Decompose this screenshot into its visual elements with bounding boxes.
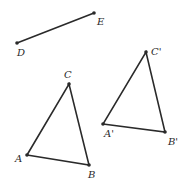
label-a-prime: A' xyxy=(103,128,114,139)
triangle-abc-prime-outline xyxy=(103,52,165,132)
point-d xyxy=(15,41,19,45)
label-a: A xyxy=(14,153,22,164)
segment-de-line xyxy=(17,13,94,43)
point-a xyxy=(25,153,29,157)
point-b xyxy=(87,163,91,167)
label-b-prime: B' xyxy=(167,136,178,147)
segment-de: D E xyxy=(15,11,105,58)
triangle-abc-prime: A' B' C' xyxy=(101,46,178,147)
label-d: D xyxy=(16,47,25,58)
point-c xyxy=(67,82,71,86)
point-b-prime xyxy=(163,130,167,134)
point-a-prime xyxy=(101,122,105,126)
geometry-diagram: D E A B C A' B' C' xyxy=(0,0,190,185)
label-c: C xyxy=(64,69,72,80)
triangle-abc-outline xyxy=(27,84,89,165)
point-c-prime xyxy=(144,50,148,54)
label-b: B xyxy=(87,169,95,180)
point-e xyxy=(92,11,96,15)
triangle-abc: A B C xyxy=(14,69,95,180)
label-e: E xyxy=(96,16,105,27)
label-c-prime: C' xyxy=(151,46,161,57)
